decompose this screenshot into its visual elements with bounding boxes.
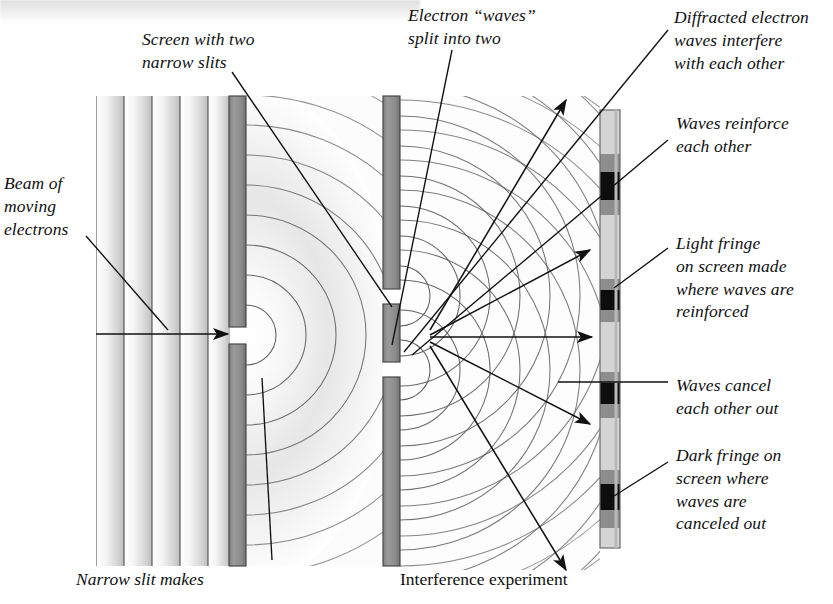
single-slit-barrier-segment: [229, 344, 246, 566]
annotation-light-fringe-on-screen: Light fringe on screen made where waves …: [676, 232, 794, 323]
caption-narrow-slit-makes: Narrow slit makes: [76, 569, 204, 591]
caption-interference-experiment: Interference experiment: [400, 569, 568, 591]
plane-wave-beam: [96, 96, 230, 566]
single-slit-barrier-segment: [229, 96, 246, 327]
double-slit-barrier-segment: [383, 96, 400, 289]
annotation-screen-with-two-narrow-slits: Screen with two narrow slits: [142, 28, 255, 74]
annotation-diffracted-electron-waves-interfere: Diffracted electron waves interfere with…: [674, 6, 809, 74]
double-slit-barrier-segment: [383, 377, 400, 566]
figure-canvas: Screen with two narrow slitsBeam of movi…: [0, 0, 833, 604]
annotation-dark-fringe-on-screen: Dark fringe on screen where waves are ca…: [676, 444, 781, 535]
annotation-beam-of-moving-electrons: Beam of moving electrons: [4, 172, 68, 240]
double-slit-barrier-segment: [383, 304, 400, 362]
annotation-waves-cancel-each-other-out: Waves cancel each other out: [676, 374, 779, 420]
leader-light-fringe-on-screen: [614, 248, 668, 288]
annotation-waves-reinforce-each-other: Waves reinforce each other: [676, 112, 789, 158]
annotation-electron-waves-split-into-two: Electron “waves” split into two: [408, 4, 536, 50]
leader-dark-fringe-on-screen: [614, 462, 668, 496]
detection-screen: [600, 110, 620, 548]
